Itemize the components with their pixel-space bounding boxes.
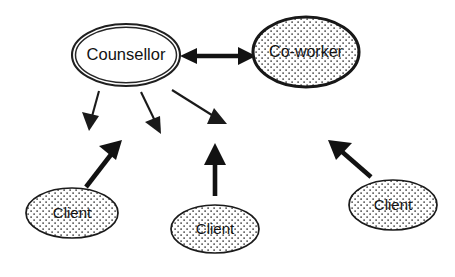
edge-counsellor-to-client-right: [172, 90, 227, 124]
node-client-right[interactable]: Client: [349, 180, 437, 230]
diagram-svg: Co-worker Counsellor Client Client Clien…: [0, 0, 455, 277]
edge-client-middle-to-counsellor: [204, 143, 226, 196]
coworker-label: Co-worker: [269, 43, 343, 60]
node-client-middle[interactable]: Client: [171, 205, 259, 253]
client-left-label: Client: [53, 204, 92, 221]
node-client-left[interactable]: Client: [26, 188, 118, 238]
edge-counsellor-to-client-left: [82, 91, 99, 131]
client-right-label: Client: [374, 196, 413, 213]
node-coworker[interactable]: Co-worker: [253, 17, 359, 87]
node-counsellor[interactable]: Counsellor: [72, 24, 180, 86]
diagram-canvas: Co-worker Counsellor Client Client Clien…: [0, 0, 455, 277]
edge-client-left-to-counsellor: [86, 140, 122, 187]
edge-client-right-to-counsellor: [328, 140, 371, 177]
client-middle-label: Client: [196, 220, 235, 237]
edge-counsellor-to-client-middle: [141, 92, 161, 134]
edge-counsellor-coworker: [180, 47, 256, 65]
counsellor-label: Counsellor: [87, 45, 166, 63]
